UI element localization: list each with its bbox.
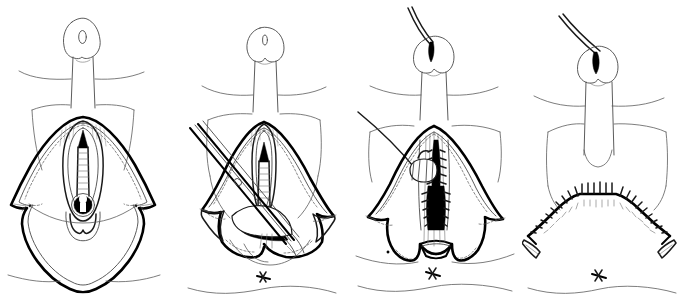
interrupted-sutures <box>531 182 667 233</box>
groin-creases <box>370 86 498 95</box>
inverted-v-suture-line <box>528 194 670 244</box>
suture-tail-left <box>522 240 540 258</box>
panel-1: Exposure of the opened perineum with inv… <box>0 0 174 302</box>
anus-marking <box>592 270 606 281</box>
phallus-glans-shaft <box>63 18 100 108</box>
urethral-meatus <box>78 130 88 148</box>
panel-2: Scissors dissecting the left flap; the l… <box>174 0 348 302</box>
groin-creases <box>534 96 664 106</box>
lower-creases <box>528 286 676 293</box>
phallus-glans-shaft <box>247 27 284 112</box>
resected-strip <box>422 140 450 230</box>
glans-traction-suture <box>559 14 600 54</box>
panel-4: Completed closure: inverted-V suture lin… <box>522 0 693 302</box>
groin-creases <box>202 86 326 95</box>
lower-creases <box>188 286 336 293</box>
dark-orifice <box>72 194 95 217</box>
suture-tail-right <box>658 240 676 258</box>
perineal-soft-tissue <box>547 124 668 210</box>
urethral-meatus <box>259 142 269 162</box>
surgical-figure: Exposure of the opened perineum with inv… <box>0 0 693 302</box>
groin-creases <box>19 71 144 79</box>
panel-3: Traction suture through glans; forceps h… <box>348 0 522 302</box>
phallus-glans-shaft <box>577 46 618 155</box>
ribbed-catheter <box>77 147 89 196</box>
retractor-blade <box>232 206 292 237</box>
anus-marking <box>426 268 440 279</box>
lower-creases <box>8 275 160 282</box>
glans-traction-suture <box>408 7 433 44</box>
anus-marking <box>257 272 270 282</box>
lower-creases <box>356 254 514 291</box>
phallus-glans-shaft <box>413 36 454 120</box>
